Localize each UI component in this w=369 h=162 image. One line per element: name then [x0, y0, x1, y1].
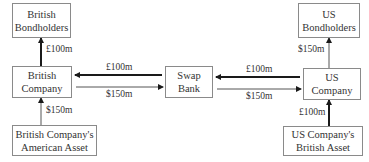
- flow-label-us-company-to-bondholders: $150m: [298, 44, 324, 55]
- flow-label-british-company-to-swap-bank: $150m: [106, 89, 132, 100]
- node-us-company-british-asset: US Company's British Asset: [283, 126, 363, 156]
- node-label-line1: British: [22, 69, 63, 82]
- node-label-line2: Company: [22, 82, 63, 95]
- node-label-line1: US: [312, 71, 353, 84]
- node-us-company: US Company: [303, 68, 361, 100]
- node-label-line1: Swap: [177, 69, 200, 82]
- node-label-line1: US: [302, 8, 356, 21]
- node-label-line2: Bondholders: [302, 21, 356, 34]
- flow-label-us-asset-to-company: £100m: [299, 107, 325, 118]
- node-label-line1: British: [15, 8, 69, 21]
- node-label-line2: Bank: [177, 82, 200, 95]
- flow-label-swap-bank-to-british-company: £100m: [106, 62, 132, 73]
- flow-label-british-asset-to-company: $150m: [46, 105, 72, 116]
- flow-label-british-company-to-bondholders: £100m: [46, 44, 72, 55]
- node-label-line2: American Asset: [15, 141, 93, 154]
- node-british-bondholders: British Bondholders: [12, 3, 71, 38]
- node-label-line2: Bondholders: [15, 21, 69, 34]
- flow-label-swap-bank-to-us-company: $150m: [246, 91, 272, 102]
- node-us-bondholders: US Bondholders: [298, 3, 360, 38]
- node-swap-bank: Swap Bank: [165, 66, 213, 98]
- node-british-company-american-asset: British Company's American Asset: [12, 125, 97, 156]
- node-label-line1: US Company's: [292, 128, 355, 141]
- node-label-line2: Company: [312, 84, 353, 97]
- node-british-company: British Company: [12, 66, 72, 98]
- node-label-line1: British Company's: [15, 128, 93, 141]
- node-label-line2: British Asset: [292, 141, 355, 154]
- flow-label-us-company-to-swap-bank: £100m: [246, 64, 272, 75]
